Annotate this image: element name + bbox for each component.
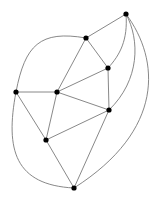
edge-C-E [57,68,108,92]
edge-G-H [46,140,74,188]
edge-D-H [12,92,74,188]
edge-A-B [86,14,126,38]
edge-C-F [108,68,109,110]
graph-nodes [13,11,128,190]
node-E [54,89,59,94]
edge-A-C [108,14,126,68]
graph-edges [12,14,149,188]
node-B [83,35,88,40]
edge-F-G [46,110,109,140]
edge-B-C [86,38,108,68]
node-D [13,89,18,94]
edge-B-E [57,38,86,92]
node-A [123,11,128,16]
edge-D-G [16,92,46,140]
edge-E-F [57,92,109,110]
edge-E-G [46,92,57,140]
node-G [43,137,48,142]
node-H [71,185,76,190]
node-C [105,65,110,70]
graph-diagram [0,0,168,204]
node-F [106,107,111,112]
